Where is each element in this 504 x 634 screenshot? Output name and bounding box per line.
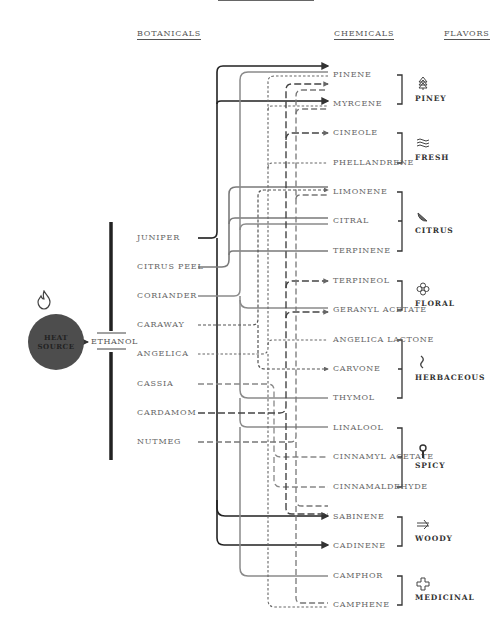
chemical-geranyl-acetate: GERANYL ACETATE [333,305,427,315]
chemical-camphene: CAMPHENE [333,600,390,610]
flavor-herbaceous: HERBACEOUS [415,373,485,383]
juniper-paths [198,66,328,545]
chemical-sabinene: SABINENE [333,512,385,522]
chemical-linalool: LINALOOL [333,423,384,433]
chemical-thymol: THYMOL [333,393,375,403]
flower-icon [416,282,430,296]
flavor-medicinal: MEDICINAL [415,593,475,603]
botanical-cassia: CASSIA [137,379,173,389]
flavor-woody: WOODY [415,534,453,544]
flavor-citrus: CITRUS [415,226,454,236]
chemical-carvone: CARVONE [333,364,381,374]
chemical-terpinene: TERPINENE [333,246,391,256]
chemical-phellandrene: PHELLANDRENE [333,158,414,168]
chemical-limonene: LIMONENE [333,187,388,197]
chemical-myrcene: MYRCENE [333,99,382,109]
botanical-coriander: CORIANDER [137,291,197,301]
flavor-fresh: FRESH [415,153,449,163]
herb-sprig-icon [416,355,430,369]
botanical-caraway: CARAWAY [137,320,185,330]
chemical-pinene: PINENE [333,70,371,80]
flavor-piney: PINEY [415,94,447,104]
chemical-cinnamaldehyde: CINNAMALDEHYDE [333,482,428,492]
chemical-angelica-lactone: ANGELICA LACTONE [333,335,434,345]
spice-grinder-icon [416,444,430,458]
flame-icon [35,290,53,310]
log-icon [416,517,430,531]
botanical-nutmeg: NUTMEG [137,437,181,447]
heat-label-line2: SOURCE [38,342,75,351]
heat-source-node: HEAT SOURCE [28,314,84,370]
pine-tree-icon [416,76,430,90]
heat-label-line1: HEAT [38,333,75,342]
botanical-citrus-peel: CITRUS PEEL [137,262,204,272]
chemical-cadinene: CADINENE [333,541,386,551]
flavor-spicy: SPICY [415,461,445,471]
botanical-angelica: ANGELICA [137,349,189,359]
ethanol-label: ETHANOL [91,337,138,346]
botanical-cardamom: CARDAMOM [137,408,196,418]
waves-icon [416,136,430,150]
botanical-juniper: JUNIPER [137,233,180,243]
chemical-cineole: CINEOLE [333,128,378,138]
chemical-citral: CITRAL [333,216,369,226]
chemical-terpineol: TERPINEOL [333,276,390,286]
chemical-camphor: CAMPHOR [333,571,383,581]
citrus-slice-icon [416,209,430,223]
medical-cross-icon [416,577,430,591]
flavor-floral: FLORAL [415,299,455,309]
